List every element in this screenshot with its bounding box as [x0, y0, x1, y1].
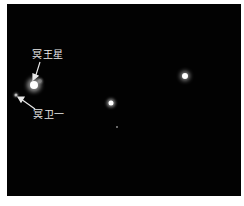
- pluto-star: [30, 81, 38, 89]
- pluto-companion-glow: [38, 79, 42, 83]
- astronomical-image: 冥王星 冥卫一: [7, 4, 241, 196]
- star-right: [182, 73, 188, 79]
- pluto-label: 冥王星: [32, 49, 64, 60]
- annotation-arrows: [7, 4, 241, 196]
- pluto-arrow-icon: [33, 62, 40, 80]
- charon-label: 冥卫一: [33, 109, 65, 120]
- charon-star: [15, 94, 18, 97]
- star-center: [109, 101, 114, 106]
- star-faint: [116, 126, 118, 128]
- charon-arrow-icon: [18, 97, 35, 109]
